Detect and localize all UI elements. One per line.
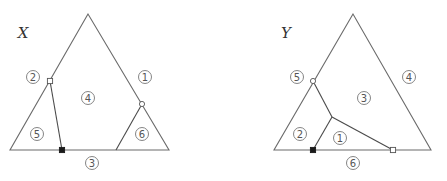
boundary-line <box>116 104 142 150</box>
label-number: 4 <box>406 72 412 83</box>
label-number: 3 <box>89 158 95 169</box>
open-square-marker <box>47 78 52 83</box>
region-label: 2 <box>27 71 40 84</box>
label-number: 4 <box>85 93 91 104</box>
label-number: 2 <box>297 129 303 140</box>
filled-square-marker <box>59 147 64 152</box>
region-label: 3 <box>86 157 99 170</box>
region-label: 6 <box>136 128 149 141</box>
boundary-line <box>313 117 332 150</box>
region-label: 4 <box>82 92 95 105</box>
region-label: 3 <box>358 92 371 105</box>
diagram-title: X <box>17 24 30 42</box>
region-label: 1 <box>334 132 347 145</box>
label-number: 2 <box>30 72 36 83</box>
region-label: 1 <box>139 71 152 84</box>
region-label: 5 <box>31 128 44 141</box>
region-label: 6 <box>347 157 360 170</box>
label-number: 1 <box>142 72 148 83</box>
boundary-line <box>50 81 62 150</box>
region-label: 4 <box>403 71 416 84</box>
filled-square-marker <box>310 147 315 152</box>
diagram-y: 543216Y <box>274 14 431 170</box>
label-number: 5 <box>34 129 40 140</box>
region-label: 2 <box>294 128 307 141</box>
label-number: 6 <box>139 129 145 140</box>
triangle-diagrams-canvas: 214563X 543216Y <box>0 0 447 181</box>
diagram-x: 214563X <box>10 14 169 170</box>
label-number: 3 <box>361 93 367 104</box>
boundary-line <box>313 81 332 117</box>
open-square-marker <box>390 147 395 152</box>
label-number: 6 <box>350 158 356 169</box>
open-circle-marker <box>310 78 315 83</box>
diagram-title: Y <box>281 24 293 42</box>
label-number: 5 <box>294 72 300 83</box>
open-circle-marker <box>139 101 144 106</box>
label-number: 1 <box>337 133 343 144</box>
region-label: 5 <box>291 71 304 84</box>
